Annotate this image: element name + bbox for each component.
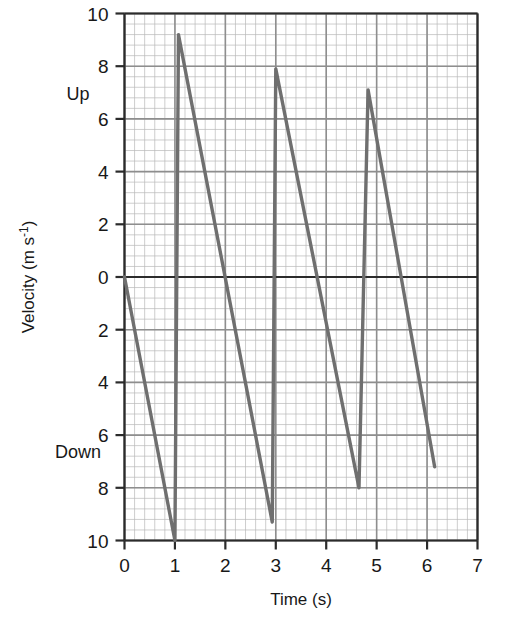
x-tick-label: 2: [220, 555, 231, 576]
y-tick-label: 6: [98, 109, 109, 130]
x-tick-label: 0: [119, 555, 130, 576]
y-axis-title: Velocity (m s-1): [17, 221, 38, 334]
y-tick-label: 8: [98, 478, 109, 499]
x-tick-label: 6: [422, 555, 433, 576]
y-tick-label: 2: [98, 214, 109, 235]
y-tick-label: 0: [98, 267, 109, 288]
x-axis-title-text: Time (s): [270, 590, 332, 609]
y-tick-label: 10: [87, 4, 108, 25]
x-tick-label: 3: [270, 555, 281, 576]
x-tick-label: 7: [472, 555, 483, 576]
velocity-time-chart: 01234567 1086420246810 UpDown Time (s) V…: [0, 0, 509, 628]
x-tick-label: 5: [371, 555, 382, 576]
y-tick-label: 2: [98, 320, 109, 341]
direction-label-down: Down: [55, 442, 101, 462]
y-axis-title-text: Velocity (m s-1): [17, 221, 38, 334]
chart-container: 01234567 1086420246810 UpDown Time (s) V…: [0, 0, 509, 628]
x-axis-title: Time (s): [270, 590, 332, 609]
x-tick-label: 4: [321, 555, 332, 576]
y-axis-title-main: Velocity (m s: [19, 237, 38, 333]
x-tick-label: 1: [170, 555, 181, 576]
y-tick-label: 4: [98, 372, 109, 393]
y-axis-title-superscript: -1: [17, 226, 31, 237]
y-tick-label: 10: [87, 531, 108, 552]
y-axis-title-tail: ): [19, 221, 38, 227]
y-tick-label: 8: [98, 56, 109, 77]
direction-label-up: Up: [66, 84, 89, 104]
y-tick-label: 4: [98, 162, 109, 183]
